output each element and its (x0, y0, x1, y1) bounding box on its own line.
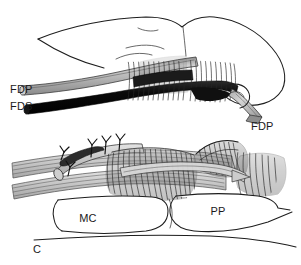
lower-panel-group: MC PP (12, 134, 296, 247)
anatomical-figure: FDP FDS FDP (0, 0, 301, 265)
proximal-phalanx-bone (176, 194, 290, 210)
upper-panel-group: FDP FDS FDP (10, 17, 285, 132)
panel-letter-c: C (33, 243, 41, 255)
pulley-a2-lower-body (106, 148, 197, 201)
label-metacarpal: MC (79, 212, 97, 224)
label-fds-proximal: FDS (10, 100, 33, 112)
figure-canvas: FDP FDS FDP (0, 0, 301, 265)
volar-baseline (34, 235, 296, 247)
label-proximal-phalanx: PP (210, 205, 225, 217)
label-fdp-distal: FDP (251, 120, 274, 132)
metacarpal-bone (58, 196, 168, 233)
label-fdp-proximal: FDP (10, 83, 33, 95)
